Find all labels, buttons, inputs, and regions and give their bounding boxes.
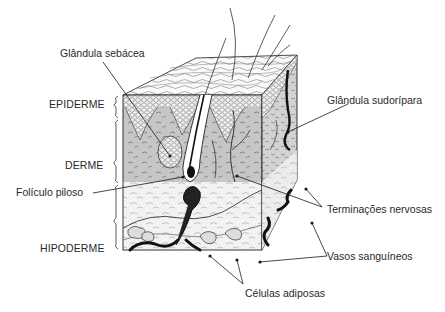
label-celulas-adiposas: Células adiposas <box>245 287 325 299</box>
label-epiderme: EPIDERME <box>49 98 105 110</box>
label-glandula-sudoripara: Glândula sudorípara <box>327 94 422 106</box>
label-derme: DERME <box>65 159 103 171</box>
label-terminacoes-nervosas: Terminações nervosas <box>327 203 432 215</box>
label-hipoderme: HIPODERME <box>40 242 105 254</box>
label-vasos-sanguineos: Vasos sanguíneos <box>327 250 413 262</box>
layer-braces <box>114 96 118 249</box>
front-face <box>123 95 262 250</box>
sebaceous-gland <box>158 136 182 168</box>
label-glandula-sebacea: Glândula sebácea <box>60 47 145 59</box>
epiderme-front <box>123 95 262 107</box>
label-foliculo-piloso: Folículo piloso <box>16 186 83 198</box>
skin-diagram: EPIDERME DERME HIPODERME Glândula sebáce… <box>0 0 445 312</box>
